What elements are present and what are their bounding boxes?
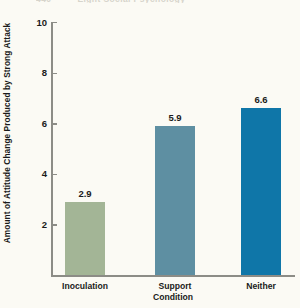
y-axis-title: Amount of Attitude Change Produced by St… (0, 4, 14, 262)
x-axis-line (51, 275, 295, 277)
y-tick-mark (51, 224, 57, 225)
y-tick-mark (51, 174, 57, 175)
plot-area: 246810 2.95.96.6 InoculationSupportNeith… (51, 22, 295, 275)
category-label: Neither (246, 281, 276, 291)
bar-chart-figure: 440Eight Social Psychology Amount of Att… (0, 0, 300, 308)
page-number: 440 (36, 0, 51, 3)
y-tick-label: 2 (42, 218, 47, 231)
y-tick-mark (51, 73, 57, 74)
y-tick-mark (51, 123, 57, 124)
y-tick-label: 6 (42, 117, 47, 130)
bar: 6.6 (241, 108, 281, 275)
bar-value-label: 6.6 (254, 94, 267, 105)
y-tick-mark (51, 22, 57, 23)
y-tick-label: 4 (42, 167, 47, 180)
bar: 2.9 (65, 202, 105, 275)
category-label: Inoculation (62, 281, 108, 291)
y-axis-line (51, 22, 53, 275)
y-tick-label: 10 (36, 16, 47, 29)
bar-value-label: 2.9 (78, 188, 91, 199)
category-label: Support (159, 281, 192, 291)
x-axis-title: Condition (51, 292, 295, 302)
y-tick-label: 8 (42, 66, 47, 79)
bar: 5.9 (155, 126, 195, 275)
bar-value-label: 5.9 (168, 112, 181, 123)
running-header: 440Eight Social Psychology (36, 0, 256, 3)
running-header-text: Eight Social Psychology (77, 0, 185, 3)
